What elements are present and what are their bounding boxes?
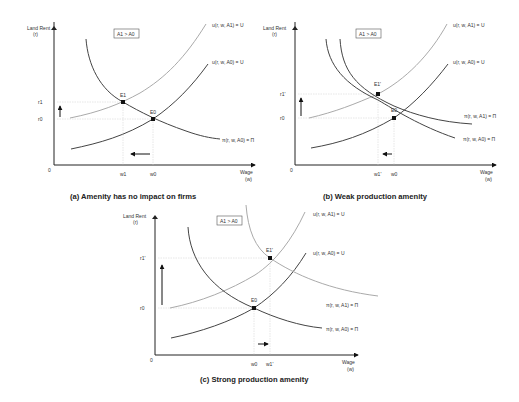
curve-label-u-a0: u(r, w, A0) = U xyxy=(453,59,485,65)
curve-pi-a0 xyxy=(188,227,322,328)
panel-b: Land Rent (r) 0 Wage (w) A1 > A0 u(r, w,… xyxy=(263,22,497,201)
origin-label: 0 xyxy=(48,167,51,173)
curve-label-u-a1: u(r, w, A1) = U xyxy=(212,22,244,28)
y-axis-arrow-icon xyxy=(292,26,298,30)
diagram-canvas: Land Rent (r) 0 Wage (w) A1 > A0 u(r, w,… xyxy=(0,0,519,402)
curve-label-pi-a1: π(r, w, A1) = Π xyxy=(464,113,497,119)
curve-label-u-a1: u(r, w, A1) = U xyxy=(313,211,345,217)
point-label-e0: E0 xyxy=(251,297,257,303)
curve-label-pi-a0: π(r, w, A0) = Π xyxy=(326,326,359,332)
panel-a: Land Rent (r) 0 Wage (w) A1 > A0 u(r, w,… xyxy=(27,22,255,201)
point-e1 xyxy=(121,100,125,104)
tick-r1-prime: r1' xyxy=(280,91,285,97)
point-e0 xyxy=(252,306,256,310)
y-axis-arrow-icon xyxy=(51,26,57,30)
tick-w1-prime: w1' xyxy=(266,361,273,367)
curve-label-pi-a1: π(r, w, A1) = Π xyxy=(326,302,359,308)
origin-label: 0 xyxy=(150,357,153,363)
y-axis-sub: (r) xyxy=(133,219,138,225)
tick-r1: r1 xyxy=(38,99,43,105)
y-axis-sub: (r) xyxy=(33,31,38,37)
tick-w0: w0 xyxy=(150,171,157,177)
tick-r0: r0 xyxy=(140,305,145,311)
x-axis-label: Wage xyxy=(240,169,253,175)
tick-r0: r0 xyxy=(38,116,43,122)
y-axis-label: Land Rent xyxy=(27,25,51,31)
caption-c: (c) Strong production amenity xyxy=(200,375,309,384)
curve-pi-a1 xyxy=(340,39,472,124)
panel-c: Land Rent (r) 0 Wage (w) A1 > A0 u(r, w,… xyxy=(123,205,378,384)
point-e1-prime xyxy=(268,256,272,260)
x-axis-sub: (w) xyxy=(347,366,354,372)
origin-label: 0 xyxy=(290,167,293,173)
tick-w0: w0 xyxy=(391,171,398,177)
point-e0 xyxy=(151,117,155,121)
point-label-e0: E0 xyxy=(391,107,397,113)
amenity-box-label: A1 > A0 xyxy=(359,31,377,37)
x-axis-label: Wage xyxy=(480,169,493,175)
point-e1-prime xyxy=(376,92,380,96)
x-axis-sub: (w) xyxy=(245,176,252,182)
x-axis-sub: (w) xyxy=(485,176,492,182)
curve-label-u-a0: u(r, w, A0) = U xyxy=(313,250,345,256)
point-label-e1: E1 xyxy=(120,92,126,98)
curve-u-a1 xyxy=(170,212,305,308)
tick-r1-prime: r1' xyxy=(140,255,145,261)
y-axis-arrow-icon xyxy=(152,215,158,219)
point-label-e1-prime: E1' xyxy=(374,81,381,87)
tick-w1: w1 xyxy=(120,171,127,177)
caption-b: (b) Weak production amenity xyxy=(323,192,428,201)
y-axis-sub: (r) xyxy=(272,31,277,37)
point-label-e1-prime: E1' xyxy=(266,247,273,253)
tick-r0: r0 xyxy=(280,115,285,121)
point-label-e0: E0 xyxy=(150,109,156,115)
curve-u-a0 xyxy=(71,64,208,149)
curve-u-a0 xyxy=(311,64,448,148)
curve-u-a0 xyxy=(171,253,306,338)
amenity-box-label: A1 > A0 xyxy=(220,218,238,224)
tick-w1-prime: w1' xyxy=(374,171,381,177)
curve-label-pi-a0: π(r, w, A0) = Π xyxy=(463,136,496,142)
caption-a: (a) Amenity has no impact on firms xyxy=(70,192,196,201)
amenity-box-label: A1 > A0 xyxy=(117,31,135,37)
tick-w0: w0 xyxy=(251,361,258,367)
curve-label-pi-a0: π(r, w, A0) = Π xyxy=(222,137,255,143)
x-axis-label: Wage xyxy=(342,359,355,365)
point-e0 xyxy=(392,116,396,120)
curve-pi-a0 xyxy=(326,39,455,138)
curve-label-u-a1: u(r, w, A1) = U xyxy=(453,22,485,28)
curve-label-u-a0: u(r, w, A0) = U xyxy=(212,59,244,65)
